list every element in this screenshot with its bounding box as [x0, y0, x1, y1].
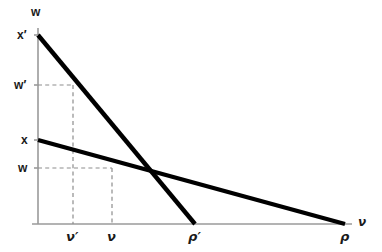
y-tick-label-w-prime: w′ — [14, 79, 27, 91]
x-tick-label-nu: ν — [107, 230, 116, 243]
plot-canvas — [0, 0, 382, 252]
x-axis-label: ν — [358, 216, 366, 228]
x-tick-label-rho: ρ — [340, 230, 350, 243]
steep-demand-line — [38, 35, 195, 224]
y-tick-label-w: w — [18, 162, 28, 174]
x-tick-label-nu-prime: ν′ — [66, 230, 79, 243]
flat-demand-line — [38, 140, 345, 224]
y-tick-label-x-prime: x′ — [17, 29, 27, 41]
y-axis-label: w — [31, 6, 41, 18]
economics-line-diagram: w ν x′ w′ x w ν′ ν ρ′ ρ — [0, 0, 382, 252]
x-tick-label-rho-prime: ρ′ — [188, 230, 201, 243]
y-tick-label-x: x — [21, 134, 28, 146]
